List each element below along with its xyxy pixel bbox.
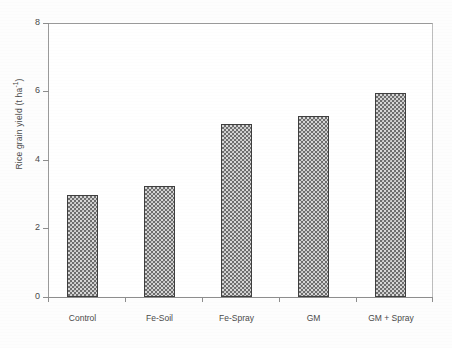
y-axis-title-suffix: ) xyxy=(14,78,24,81)
y-axis-title-exponent: -1 xyxy=(12,81,19,87)
bar-fe-soil xyxy=(144,186,175,297)
bar-control xyxy=(67,195,98,297)
x-tick-label-fe-soil: Fe-Soil xyxy=(134,313,185,323)
y-tick-mark-8 xyxy=(43,23,49,24)
y-axis-title-main: Rice grain yield (t ha xyxy=(14,88,24,170)
y-tick-mark-2 xyxy=(43,228,49,229)
y-tick-mark-4 xyxy=(43,160,49,161)
y-tick-label-6: 6 xyxy=(24,85,40,95)
x-tick-mark-4 xyxy=(356,297,357,302)
x-tick-label-gm: GM xyxy=(288,313,339,323)
y-tick-label-4: 4 xyxy=(24,154,40,164)
y-tick-label-0: 0 xyxy=(24,291,40,301)
x-tick-mark-1 xyxy=(125,297,126,302)
bar-gm-plus-spray xyxy=(375,93,406,297)
x-tick-label-control: Control xyxy=(57,313,108,323)
x-tick-label-gm-plus-spray: GM + Spray xyxy=(360,313,422,323)
y-axis-title: Rice grain yield (t ha-1) xyxy=(12,54,24,194)
x-tick-mark-5 xyxy=(432,297,433,302)
y-tick-label-8: 8 xyxy=(24,17,40,27)
bar-fe-spray xyxy=(221,124,252,297)
bar-chart: Rice grain yield (t ha-1) 8 6 4 2 0 Cont… xyxy=(0,0,452,348)
x-tick-label-fe-spray: Fe-Spray xyxy=(211,313,262,323)
bar-gm xyxy=(298,116,329,297)
y-tick-mark-6 xyxy=(43,91,49,92)
x-axis-line xyxy=(48,297,433,298)
x-tick-mark-3 xyxy=(279,297,280,302)
x-tick-mark-2 xyxy=(202,297,203,302)
y-tick-label-2: 2 xyxy=(24,222,40,232)
x-tick-mark-0 xyxy=(48,297,49,302)
